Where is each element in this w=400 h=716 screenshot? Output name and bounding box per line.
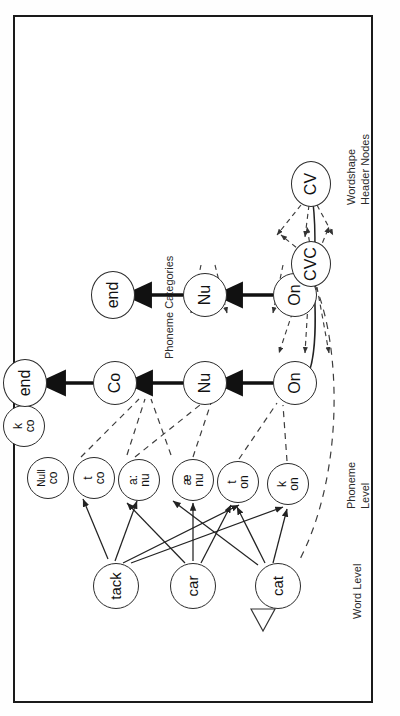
word-node-car[interactable]: car (170, 563, 216, 609)
category-node-cvc-nu-label: Nu (197, 373, 213, 393)
figure-page: cat car tack k on t on æ (0, 0, 400, 716)
phoneme-node-t-on[interactable]: t on (217, 461, 259, 503)
phoneme-node-null-co[interactable]: Null co (27, 457, 69, 499)
phoneme-node-aa-nu-bottom: nu (139, 473, 151, 486)
phoneme-node-null-co-bottom: co (47, 472, 59, 485)
phoneme-node-ae-nu-bottom: nu (193, 473, 205, 486)
category-node-cvc-end[interactable]: end (3, 359, 47, 407)
word-to-phoneme-edges (83, 499, 287, 565)
phoneme-node-k-on[interactable]: k on (267, 463, 309, 505)
category-node-cvc-co[interactable]: Co (93, 361, 137, 405)
category-node-cv-nu-label: Nu (197, 285, 213, 305)
phoneme-node-aa-nu[interactable]: a: nu (118, 459, 160, 501)
category-node-cv-on-label: On (287, 284, 303, 305)
phoneme-node-k-on-bottom: on (288, 477, 300, 490)
diagram-canvas: cat car tack k on t on æ (15, 17, 375, 705)
category-node-cvc-nu[interactable]: Nu (183, 361, 227, 405)
wordshape-node-cvc[interactable]: CVC (291, 241, 331, 287)
phoneme-node-k-co[interactable]: k co (3, 405, 45, 447)
category-node-cv-end[interactable]: end (91, 271, 135, 319)
phoneme-node-t-co[interactable]: t co (73, 457, 115, 499)
word-node-tack[interactable]: tack (93, 563, 139, 609)
word-node-tack-label: tack (108, 572, 123, 600)
phoneme-node-t-on-bottom: on (238, 475, 250, 488)
phoneme-node-t-co-bottom: co (94, 472, 106, 485)
phoneme-to-category-edges (81, 399, 287, 461)
phoneme-node-ae-nu[interactable]: æ nu (172, 459, 214, 501)
category-node-cvc-on[interactable]: On (273, 361, 317, 405)
category-node-cv-nu[interactable]: Nu (183, 273, 227, 317)
category-node-cvc-on-label: On (287, 372, 303, 393)
category-node-cvc-end-label: end (17, 370, 33, 397)
external-input-triangle (251, 609, 275, 631)
category-node-cvc-co-label: Co (107, 373, 123, 393)
wordshape-node-cvc-label: CVC (303, 247, 319, 281)
label-phoneme-categories: Phoneme Categories (163, 219, 177, 359)
rotated-diagram-wrapper: cat car tack k on t on æ (15, 17, 375, 705)
word-node-car-label: car (185, 576, 200, 597)
wordshape-to-word-feedback-edge (298, 285, 334, 563)
label-phoneme-level: Phoneme Level (345, 429, 373, 509)
wordshape-node-cv[interactable]: CV (291, 161, 331, 207)
figure-border: cat car tack k on t on æ (13, 15, 373, 703)
word-node-cat[interactable]: cat (255, 563, 301, 609)
wordshape-node-cv-label: CV (303, 173, 319, 195)
phoneme-node-k-co-bottom: co (24, 420, 36, 433)
label-word-level: Word Level (351, 529, 365, 619)
category-node-cv-end-label: end (105, 282, 121, 309)
cv-fanout-edges (277, 205, 333, 237)
label-wordshape-header-nodes: Wordshape Header Nodes (345, 95, 373, 205)
word-node-cat-label: cat (270, 576, 285, 596)
